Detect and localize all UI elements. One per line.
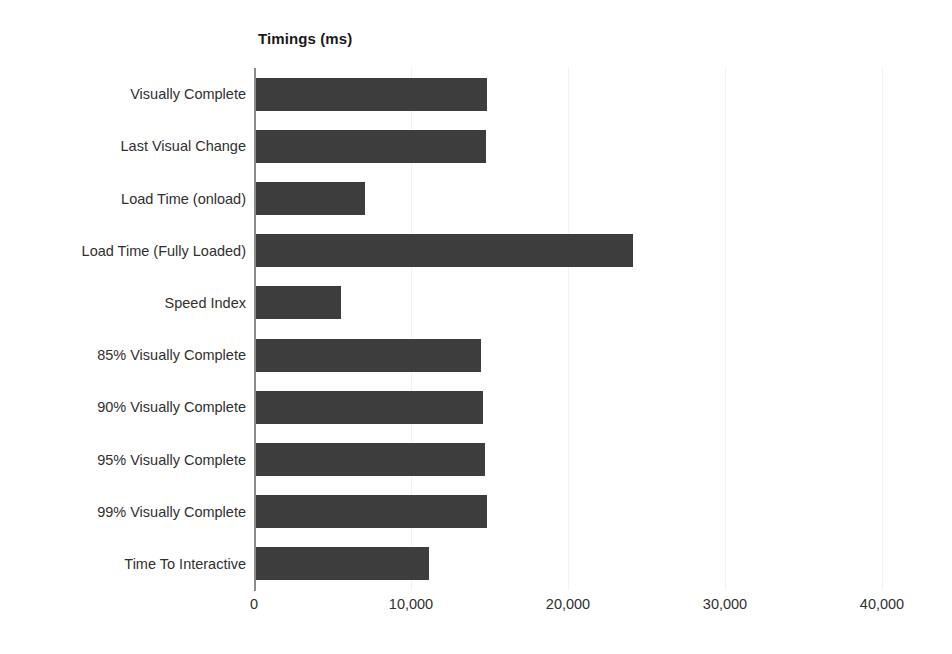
bar[interactable] (255, 391, 483, 424)
gridline (725, 68, 726, 590)
x-axis-tick-label: 10,000 (389, 596, 433, 612)
bar-chart: Timings (ms) Visually CompleteLast Visua… (0, 0, 952, 654)
x-axis-tick-label: 30,000 (703, 596, 747, 612)
gridline (568, 68, 569, 590)
y-axis-tick-labels: Visually CompleteLast Visual ChangeLoad … (20, 68, 246, 590)
y-axis-tick-label: Visually Complete (26, 86, 246, 102)
gridline (882, 68, 883, 590)
bar[interactable] (255, 182, 365, 215)
x-axis-tick-label: 0 (250, 596, 258, 612)
y-axis-tick-label: Speed Index (26, 295, 246, 311)
x-axis-tick-labels: 010,00020,00030,00040,000 (0, 596, 952, 624)
bar[interactable] (255, 443, 485, 476)
y-axis-tick-label: 85% Visually Complete (26, 347, 246, 363)
y-axis-tick-label: 95% Visually Complete (26, 452, 246, 468)
y-axis-tick-label: 99% Visually Complete (26, 504, 246, 520)
bar[interactable] (255, 130, 486, 163)
bar[interactable] (255, 339, 481, 372)
bar[interactable] (255, 78, 487, 111)
y-axis-tick-label: Time To Interactive (26, 556, 246, 572)
y-axis-tick-label: 90% Visually Complete (26, 399, 246, 415)
y-axis-tick-label: Load Time (onload) (26, 191, 246, 207)
y-axis-tick-label: Load Time (Fully Loaded) (26, 243, 246, 259)
bar[interactable] (255, 234, 633, 267)
bar[interactable] (255, 286, 341, 319)
chart-title: Timings (ms) (258, 30, 352, 47)
y-axis-tick-label: Last Visual Change (26, 138, 246, 154)
bar[interactable] (255, 495, 487, 528)
x-axis-tick-label: 40,000 (860, 596, 904, 612)
bar[interactable] (255, 547, 429, 580)
y-axis-line (254, 68, 256, 591)
plot-area (254, 68, 882, 590)
x-axis-tick-label: 20,000 (546, 596, 590, 612)
